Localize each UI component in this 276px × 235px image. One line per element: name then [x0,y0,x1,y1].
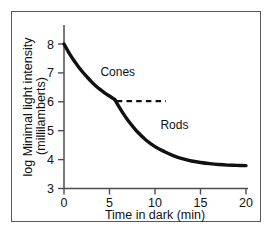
figure-root: 8 7 6 5 4 3 0 5 10 15 20 Time in dark (m… [0,0,276,235]
y-axis-ticks [58,44,64,189]
y-axis-title: log Minimal light intensity [21,37,35,177]
x-axis-title: Time in dark (min) [105,208,205,222]
rods-series-label: Rods [160,118,188,132]
x-axis-ticks [64,189,246,195]
y-tick-label-7: 7 [47,66,54,80]
y-tick-label-8: 8 [47,38,54,52]
dark-adaptation-curve-chart: 8 7 6 5 4 3 0 5 10 15 20 Time in dark (m… [0,0,276,235]
y-tick-label-3: 3 [47,182,54,196]
rods-curve [115,100,246,166]
y-axis-title-units: (millilamberts) [34,77,48,155]
y-tick-label-6: 6 [47,95,54,109]
y-tick-label-5: 5 [47,124,54,138]
x-tick-label-20: 20 [239,196,253,210]
cones-series-label: Cones [100,65,135,79]
y-tick-label-4: 4 [47,153,54,167]
x-tick-label-0: 0 [61,196,68,210]
